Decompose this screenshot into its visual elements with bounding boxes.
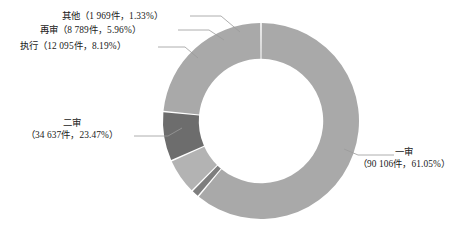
donut-slices bbox=[163, 23, 359, 219]
chart-page: 其他（1 969件，1.33%） 再审（8 789件，5.96%） 执行（12 … bbox=[0, 0, 456, 227]
slice-label-second-instance: 二审 （34 637件，23.47%） bbox=[6, 118, 138, 141]
slice-label-other: 其他（1 969件，1.33%） bbox=[62, 11, 163, 23]
slice-label-first-instance-title: 一审 bbox=[352, 147, 456, 159]
slice-label-first-instance: 一审 （90 106件，61.05%） bbox=[352, 147, 456, 170]
slice-label-execution: 执行（12 095件，8.19%） bbox=[20, 41, 126, 53]
slice-label-second-instance-title: 二审 bbox=[6, 118, 138, 130]
slice-label-retrial: 再审（8 789件，5.96%） bbox=[40, 25, 141, 37]
slice-label-first-instance-detail: （90 106件，61.05%） bbox=[352, 159, 456, 171]
slice-second-instance[interactable] bbox=[164, 23, 261, 115]
slice-label-second-instance-detail: （34 637件，23.47%） bbox=[6, 130, 138, 142]
